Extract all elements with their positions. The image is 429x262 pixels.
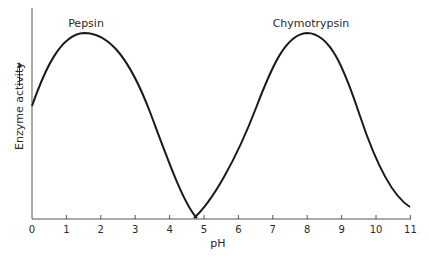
x-tick-labels: 0 1 2 3 4 5 6 7 8 9 10 11 xyxy=(29,224,417,235)
x-axis-title: pH xyxy=(210,237,225,250)
x-tick-label: 10 xyxy=(370,224,383,235)
x-tick-label: 2 xyxy=(98,224,104,235)
chymotrypsin-label: Chymotrypsin xyxy=(273,17,350,30)
x-tick-label: 9 xyxy=(338,224,344,235)
x-tick-label: 7 xyxy=(270,224,276,235)
pepsin-label: Pepsin xyxy=(68,17,104,30)
x-tick-label: 1 xyxy=(63,224,69,235)
chymotrypsin-curve xyxy=(194,33,410,218)
x-tick-marks xyxy=(66,215,410,219)
x-tick-label: 4 xyxy=(166,224,172,235)
x-tick-label: 0 xyxy=(29,224,35,235)
x-tick-label: 11 xyxy=(404,224,417,235)
x-tick-label: 5 xyxy=(201,224,207,235)
pepsin-curve xyxy=(32,33,197,218)
x-tick-label: 3 xyxy=(132,224,138,235)
x-tick-label: 8 xyxy=(304,224,310,235)
enzyme-activity-chart: 0 1 2 3 4 5 6 7 8 9 10 11 pH Enzyme acti… xyxy=(0,0,429,262)
x-tick-label: 6 xyxy=(235,224,241,235)
